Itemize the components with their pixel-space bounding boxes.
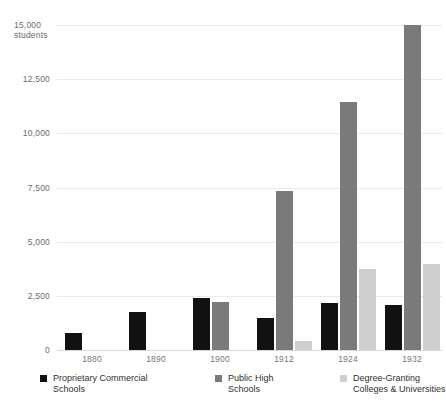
chart-legend: Proprietary Commercial SchoolsPublic Hig…: [40, 373, 440, 403]
x-axis-tick-label: 1932: [380, 354, 444, 364]
bar: [359, 269, 376, 350]
bar: [385, 305, 402, 351]
y-axis-tick-label: 12,500: [2, 74, 50, 84]
y-axis-tick-value: 7,500: [28, 183, 50, 193]
y-axis-tick-value: 10,000: [23, 128, 50, 138]
legend-item-label: Proprietary Commercial Schools: [53, 373, 148, 395]
y-axis-tick-value: 12,500: [23, 74, 50, 84]
y-axis-tick-value: 5,000: [28, 237, 50, 247]
x-axis-tick-label: 1912: [252, 354, 316, 364]
y-axis-unit-label: students: [14, 30, 74, 40]
bar: [423, 264, 440, 350]
bar-group: [129, 25, 193, 350]
legend-item-label: Degree-Granting Colleges & Universities: [353, 373, 446, 395]
y-axis-tick-value: 15,000: [14, 20, 41, 30]
bar-group: [193, 25, 257, 350]
bar: [212, 302, 229, 350]
legend-item-label: Public High Schools: [228, 373, 274, 395]
bar: [65, 333, 82, 350]
bar-chart: 15,000students12,50010,0007,5005,0002,50…: [0, 0, 446, 409]
legend-item[interactable]: Proprietary Commercial Schools: [40, 373, 200, 395]
x-axis-tick-label: 1900: [188, 354, 252, 364]
legend-item[interactable]: Degree-Granting Colleges & Universities: [340, 373, 446, 395]
y-axis-tick-label: 0: [2, 345, 50, 355]
bar: [404, 25, 421, 350]
x-axis-tick-label: 1880: [60, 354, 124, 364]
bar: [295, 341, 312, 350]
legend-swatch-icon: [340, 375, 347, 382]
bar-group: [65, 25, 129, 350]
gridline: [57, 350, 442, 351]
bar-group: [321, 25, 385, 350]
y-axis-tick-value: 2,500: [28, 291, 50, 301]
x-axis-tick-label: 1924: [316, 354, 380, 364]
y-axis-tick-label: 5,000: [2, 237, 50, 247]
y-axis-tick-value: 0: [45, 345, 50, 355]
legend-swatch-icon: [40, 375, 47, 382]
legend-swatch-icon: [215, 375, 222, 382]
bar-group: [385, 25, 446, 350]
bar-group: [257, 25, 321, 350]
y-axis-tick-label: 2,500: [2, 291, 50, 301]
y-axis-tick-label: 7,500: [2, 183, 50, 193]
legend-item[interactable]: Public High Schools: [215, 373, 335, 395]
bar: [340, 102, 357, 350]
y-axis-tick-label: 15,000students: [14, 20, 74, 40]
y-axis-tick-label: 10,000: [2, 128, 50, 138]
plot-area: [57, 25, 442, 350]
x-axis-tick-label: 1890: [124, 354, 188, 364]
bar: [193, 298, 210, 350]
bar: [321, 303, 338, 350]
bar: [257, 318, 274, 351]
bar: [129, 312, 146, 350]
bar: [276, 191, 293, 350]
